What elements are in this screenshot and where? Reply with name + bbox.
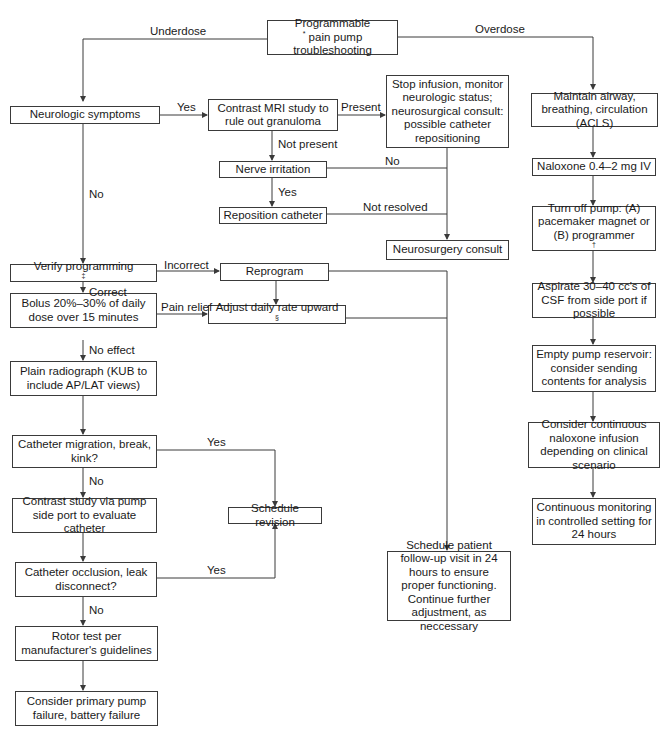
node-catheter-migration: Catheter migration, break, kink? (12, 435, 157, 468)
node-continuous-monitoring: Continuous monitoring in controlled sett… (532, 498, 656, 545)
node-naloxone: Naloxone 0.4–2 mg IV (532, 158, 656, 176)
maintain-airway-text: Maintain airway, breathing, circulation … (535, 90, 654, 131)
node-rotor-test: Rotor test per manufacturer's guidelines (15, 626, 158, 661)
label-no-effect: No effect (89, 344, 135, 357)
neuro-symptoms-text: Neurologic symptoms (30, 108, 141, 122)
aspirate-text: Aspirate 30–40 cc's of CSF from side por… (536, 280, 652, 321)
naloxone-text: Naloxone 0.4–2 mg IV (537, 160, 651, 174)
node-nerve-irritation: Nerve irritation (219, 161, 327, 178)
label-migration-yes: Yes (207, 436, 226, 449)
label-correct: Correct (89, 286, 127, 299)
label-overdose: Overdose (475, 23, 525, 36)
label-incorrect: Incorrect (164, 259, 209, 272)
start-text-2: pain pump troubleshooting (293, 31, 372, 57)
node-reposition-catheter: Reposition catheter (219, 207, 327, 224)
node-bolus: Bolus 20%–30% of daily dose over 15 minu… (10, 293, 157, 328)
node-catheter-occlusion: Catheter occlusion, leak disconnect? (15, 562, 157, 597)
node-continuous-naloxone: Consider continuous naloxone infusion de… (528, 422, 660, 468)
node-maintain-airway: Maintain airway, breathing, circulation … (531, 93, 658, 127)
label-neuro-yes: Yes (177, 101, 196, 114)
label-neuro-no: No (89, 188, 104, 201)
label-mri-present: Present (341, 101, 381, 114)
node-verify-programming: Verify programming‡ (10, 264, 157, 282)
node-neurosurgery-consult: Neurosurgery consult (386, 240, 509, 260)
node-schedule-revision: Schedule revision (228, 507, 322, 524)
label-mri-not-present: Not present (278, 138, 337, 151)
footnote-mark: † (592, 241, 596, 248)
bolus-text: Bolus 20%–30% of daily dose over 15 minu… (14, 297, 153, 324)
reprogram-text: Reprogram (246, 265, 304, 279)
verify-programming-text: Verify programming (34, 260, 134, 274)
node-reprogram: Reprogram (220, 263, 329, 281)
reposition-catheter-text: Reposition catheter (223, 209, 322, 223)
node-neurologic-symptoms: Neurologic symptoms (10, 106, 160, 124)
node-empty-reservoir: Empty pump reservoir: consider sending c… (532, 345, 656, 392)
footnote-mark: § (275, 314, 279, 321)
node-start: Programmable* pain pump troubleshooting (267, 20, 398, 55)
contrast-mri-text: Contrast MRI study to rule out granuloma (212, 102, 334, 129)
node-adjust-rate: Adjust daily rate upward§ (208, 305, 346, 324)
label-underdose: Underdose (150, 25, 206, 38)
empty-reservoir-text: Empty pump reservoir: consider sending c… (536, 348, 652, 389)
node-aspirate: Aspirate 30–40 cc's of CSF from side por… (532, 283, 656, 318)
neurosurgery-consult-text: Neurosurgery consult (393, 243, 502, 257)
catheter-migration-text: Catheter migration, break, kink? (16, 438, 153, 465)
node-plain-radiograph: Plain radiograph (KUB to include AP/LAT … (10, 361, 157, 396)
label-nerve-yes: Yes (278, 186, 297, 199)
node-stop-infusion: Stop infusion, monitor neurologic status… (386, 75, 509, 148)
label-nerve-no: No (385, 155, 400, 168)
rotor-test-text: Rotor test per manufacturer's guidelines (19, 630, 154, 657)
label-pain-relief: Pain relief (161, 301, 212, 314)
follow-up-text: Schedule patient follow-up visit in 24 h… (391, 539, 507, 634)
node-primary-failure: Consider primary pump failure, battery f… (15, 691, 158, 726)
adjust-rate-text: Adjust daily rate upward (216, 301, 339, 315)
label-not-resolved: Not resolved (363, 201, 428, 214)
label-occlusion-no: No (89, 604, 104, 617)
continuous-naloxone-text: Consider continuous naloxone infusion de… (532, 418, 656, 472)
stop-infusion-text: Stop infusion, monitor neurologic status… (390, 78, 505, 146)
node-contrast-study: Contrast study via pump side port to eva… (12, 498, 157, 533)
primary-failure-text: Consider primary pump failure, battery f… (19, 695, 154, 722)
start-text: Programmable (271, 17, 394, 31)
nerve-irritation-text: Nerve irritation (236, 163, 311, 177)
label-migration-no: No (89, 475, 104, 488)
contrast-study-text: Contrast study via pump side port to eva… (16, 495, 153, 536)
schedule-revision-text: Schedule revision (232, 502, 318, 529)
node-follow-up: Schedule patient follow-up visit in 24 h… (387, 551, 511, 621)
continuous-monitoring-text: Continuous monitoring in controlled sett… (536, 501, 652, 542)
plain-radiograph-text: Plain radiograph (KUB to include AP/LAT … (14, 365, 153, 392)
node-turn-off-pump: Turn off pump: (A) pacemaker magnet or (… (532, 206, 656, 251)
label-occlusion-yes: Yes (207, 564, 226, 577)
node-contrast-mri: Contrast MRI study to rule out granuloma (208, 99, 338, 131)
turn-off-pump-text: Turn off pump: (A) pacemaker magnet or (… (536, 202, 652, 243)
footnote-mark: ‡ (82, 272, 86, 279)
catheter-occlusion-text: Catheter occlusion, leak disconnect? (19, 566, 153, 593)
